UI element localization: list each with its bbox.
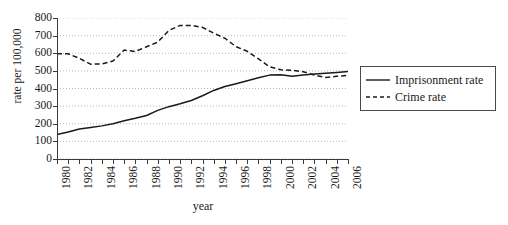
x-tick-mark — [57, 160, 58, 164]
y-tick-mark — [53, 124, 57, 125]
y-tick-label: 700 — [0, 30, 52, 42]
series-line-imprisonment-rate — [57, 71, 348, 134]
x-tick-mark — [247, 160, 248, 164]
y-tick-mark — [53, 71, 57, 72]
x-tick-mark — [270, 160, 271, 164]
y-axis-tick-labels: 0100200300400500600700800 — [0, 18, 52, 159]
y-tick-label: 600 — [0, 47, 52, 59]
x-tick-mark — [180, 160, 181, 164]
y-tick-mark — [53, 36, 57, 37]
y-tick-label: 300 — [0, 100, 52, 112]
x-tick-label: 1998 — [262, 166, 274, 189]
series-line-crime-rate — [57, 25, 348, 77]
legend-label-crime-rate: Crime rate — [395, 91, 446, 103]
x-tick-mark — [337, 160, 338, 164]
y-tick-label: 500 — [0, 65, 52, 77]
chart-legend: Imprisonment rate Crime rate — [360, 66, 496, 111]
x-tick-label: 1984 — [106, 166, 118, 189]
y-tick-label: 0 — [0, 153, 52, 165]
x-tick-mark — [113, 160, 114, 164]
x-tick-mark — [348, 160, 349, 164]
x-tick-mark — [91, 160, 92, 164]
y-tick-label: 100 — [0, 135, 52, 147]
x-tick-label: 1992 — [195, 166, 207, 189]
x-tick-mark — [79, 160, 80, 164]
y-tick-mark — [53, 106, 57, 107]
y-tick-label: 400 — [0, 83, 52, 95]
y-axis-title: rate per 100,000 — [11, 6, 23, 126]
x-tick-mark — [135, 160, 136, 164]
x-tick-mark — [214, 160, 215, 164]
legend-label-imprisonment-rate: Imprisonment rate — [395, 74, 483, 86]
legend-swatch-solid-icon — [365, 75, 391, 85]
x-tick-label: 2000 — [285, 166, 297, 189]
x-axis-title: year — [57, 199, 349, 214]
x-tick-mark — [158, 160, 159, 164]
x-tick-mark — [191, 160, 192, 164]
legend-swatch-dashed-icon — [365, 92, 391, 102]
plot-area — [57, 18, 348, 159]
x-tick-mark — [236, 160, 237, 164]
x-tick-mark — [314, 160, 315, 164]
chart-figure: 0100200300400500600700800 rate per 100,0… — [0, 0, 508, 225]
y-tick-mark — [53, 53, 57, 54]
x-tick-label: 1996 — [240, 166, 252, 189]
x-tick-mark — [303, 160, 304, 164]
x-tick-label: 1982 — [83, 166, 95, 189]
y-tick-mark — [53, 89, 57, 90]
x-tick-label: 1990 — [173, 166, 185, 189]
x-tick-label: 2004 — [330, 166, 342, 189]
y-tick-mark — [53, 141, 57, 142]
series-lines — [57, 25, 348, 134]
x-tick-label: 2002 — [307, 166, 319, 189]
x-tick-mark — [326, 160, 327, 164]
x-tick-mark — [225, 160, 226, 164]
y-axis-line — [57, 18, 58, 160]
x-tick-label: 1988 — [151, 166, 163, 189]
x-tick-mark — [124, 160, 125, 164]
x-tick-mark — [292, 160, 293, 164]
x-tick-label: 1994 — [218, 166, 230, 189]
x-tick-label: 1980 — [61, 166, 73, 189]
legend-item-crime-rate: Crime rate — [365, 88, 491, 105]
x-tick-label: 1986 — [128, 166, 140, 189]
x-tick-label: 2006 — [352, 166, 364, 189]
x-tick-mark — [258, 160, 259, 164]
x-tick-mark — [147, 160, 148, 164]
x-tick-mark — [102, 160, 103, 164]
x-tick-mark — [281, 160, 282, 164]
y-tick-mark — [53, 18, 57, 19]
legend-item-imprisonment-rate: Imprisonment rate — [365, 71, 491, 88]
plot-svg — [57, 18, 348, 159]
x-tick-mark — [68, 160, 69, 164]
gridlines — [57, 18, 348, 159]
y-tick-label: 800 — [0, 12, 52, 24]
x-tick-mark — [203, 160, 204, 164]
x-tick-mark — [169, 160, 170, 164]
y-tick-label: 200 — [0, 118, 52, 130]
